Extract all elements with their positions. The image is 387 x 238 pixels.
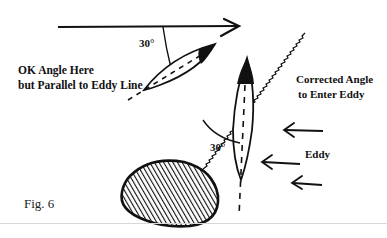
bottom-divider (0, 223, 387, 224)
angle-label-upper: 30° (139, 36, 154, 51)
figure-caption: Fig. 6 (24, 196, 54, 212)
ok-angle-line-2: but Parallel to Eddy Line (18, 78, 143, 93)
corrected-angle-label: Corrected Angle to Enter Eddy (296, 72, 373, 102)
diagram-canvas (0, 0, 387, 238)
corrected-line-2: to Enter Eddy (296, 87, 373, 102)
current-arrow (58, 19, 239, 36)
eddy-arrow-3 (292, 176, 322, 189)
eddy-arrow-2 (262, 155, 300, 169)
corrected-line-1: Corrected Angle (296, 72, 373, 87)
upper-angle-arc (163, 27, 171, 68)
eddy-arrow-1 (284, 123, 323, 137)
figure: 30° OK Angle Here but Parallel to Eddy L… (0, 0, 387, 238)
angle-label-lower: 30° (210, 140, 225, 155)
eddy-label: Eddy (305, 147, 330, 162)
ok-angle-label: OK Angle Here but Parallel to Eddy Line (18, 63, 143, 93)
rock (121, 161, 218, 227)
lower-boat (233, 58, 254, 216)
ok-angle-line-1: OK Angle Here (18, 63, 143, 78)
